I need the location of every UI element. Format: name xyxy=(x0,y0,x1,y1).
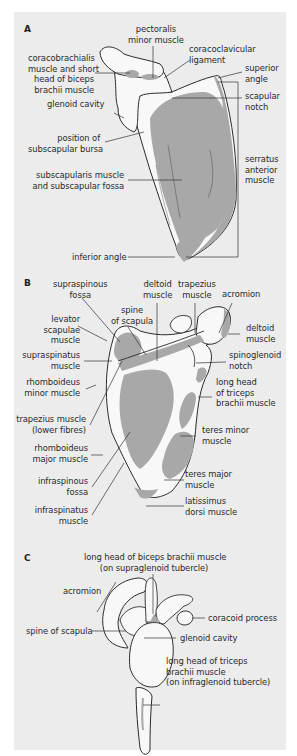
lateral-border xyxy=(136,687,152,754)
label-glenoid-cavity: glenoid cavity xyxy=(180,633,237,644)
label-teres-minor: teres minormuscle xyxy=(202,425,249,446)
label-scapular-notch: scapularnotch xyxy=(245,91,280,112)
label-biceps-long-head: long head of biceps brachii muscle(on su… xyxy=(84,552,224,573)
panel-letter: C xyxy=(24,553,31,563)
label-coracoid-process: coracoid process xyxy=(208,613,277,624)
pectoralis-minor-attachment xyxy=(141,74,159,80)
label-subscapularis: subscapularis muscleand subscapular foss… xyxy=(28,170,124,191)
label-trapezius-top: trapeziusmuscle xyxy=(178,279,216,300)
label-subscapular-bursa: position ofsubscapular bursa xyxy=(28,133,100,154)
label-acromion: acromion xyxy=(63,586,101,597)
label-infraspinous-fossa: infraspinousfossa xyxy=(28,476,88,497)
label-spine-of-scapula: spine of scapula xyxy=(26,626,92,637)
label-rhomboideus-major: rhomboideusmajor muscle xyxy=(22,443,88,464)
label-glenoid-cavity: glenoid cavity xyxy=(47,99,104,110)
panel-letter: B xyxy=(24,278,31,288)
label-latissimus-dorsi: latissimusdorsi muscle xyxy=(185,496,237,517)
label-rhomboideus-minor: rhomboideusminor muscle xyxy=(22,377,80,398)
label-infraspinatus: infraspinatusmuscle xyxy=(22,505,88,526)
label-serratus-anterior: serratusanteriormuscle xyxy=(245,154,279,186)
triceps-attachment xyxy=(142,698,143,730)
label-inferior-angle: inferior angle xyxy=(72,252,127,263)
panel-b: B supraspinousfossa deltoidmuscle trapez… xyxy=(0,265,297,540)
coracoid-process xyxy=(170,315,192,333)
panel-a: A pectoralisminor muscle coracoclavicula… xyxy=(0,0,297,265)
label-levator-scapulae: levatorscapulaemuscle xyxy=(28,314,80,346)
label-superior-angle: superiorangle xyxy=(245,63,279,84)
label-triceps-long-head: long headof tricepsbrachii muscle xyxy=(216,377,276,409)
label-supraspinous-fossa: supraspinousfossa xyxy=(53,279,107,300)
panel-letter: A xyxy=(24,24,31,34)
label-supraspinatus: supraspinatusmuscle xyxy=(22,350,80,371)
label-spine-of-scapula: spineof scapula xyxy=(111,305,153,326)
coracobrachialis-attachment xyxy=(125,70,139,78)
label-spinoglenoid-notch: spinoglenoidnotch xyxy=(229,350,281,371)
panel-c: C long head of biceps brachii muscle(on … xyxy=(0,540,297,756)
label-teres-major: teres majormuscle xyxy=(185,469,232,490)
label-trapezius-lower: trapezius muscle(lower fibres) xyxy=(16,414,86,435)
label-pectoralis-minor: pectoralisminor muscle xyxy=(128,24,184,45)
label-acromion: acromion xyxy=(222,289,260,300)
label-coracobrachialis: coracobrachialismuscle and shorthead of … xyxy=(28,53,94,95)
label-deltoid-right: deltoidmuscle xyxy=(246,323,275,344)
label-deltoid-top: deltoidmuscle xyxy=(143,279,172,300)
label-triceps-long-head: long head of tricepsbrachii muscle(on in… xyxy=(166,656,270,688)
label-coracoclavicular-ligament: coracoclavicularligament xyxy=(189,44,256,65)
